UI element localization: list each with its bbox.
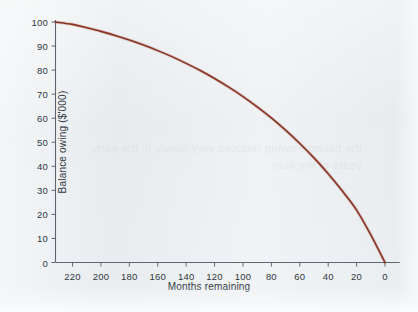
- y-tick-label: 30: [22, 185, 48, 196]
- x-tick-label: 120: [206, 271, 222, 282]
- y-tick-label: 90: [22, 41, 48, 52]
- y-tick-label: 0: [22, 257, 48, 268]
- y-tick-label: 70: [22, 89, 48, 100]
- y-tick-label: 10: [22, 233, 48, 244]
- x-tick-label: 160: [150, 271, 166, 282]
- x-tick-label: 140: [178, 271, 194, 282]
- y-tick-label: 40: [22, 161, 48, 172]
- y-tick-label: 80: [22, 65, 48, 76]
- data-series-group: [56, 22, 386, 263]
- y-tick-label: 50: [22, 137, 48, 148]
- chart-figure: the balance owing reduces very slowly in…: [0, 0, 418, 312]
- y-axis-title: Balance owing ($'000): [57, 91, 68, 194]
- series-line-balance-owing: [56, 22, 386, 263]
- x-tick-label: 60: [294, 271, 305, 282]
- x-tick-label: 0: [382, 271, 387, 282]
- x-tick-marks: [73, 263, 385, 267]
- x-tick-label: 100: [235, 271, 251, 282]
- x-tick-label: 80: [266, 271, 277, 282]
- series-line-halo: [56, 22, 386, 263]
- x-tick-label: 180: [121, 271, 137, 282]
- y-tick-label: 60: [22, 113, 48, 124]
- y-tick-label: 20: [22, 209, 48, 220]
- y-tick-label: 100: [22, 17, 48, 28]
- x-tick-label: 20: [351, 271, 362, 282]
- x-axis-title: Months remaining: [0, 281, 418, 292]
- x-tick-label: 40: [323, 271, 334, 282]
- y-tick-marks: [52, 22, 56, 263]
- axis-lines: [56, 20, 401, 263]
- x-tick-label: 220: [64, 271, 80, 282]
- x-tick-label: 200: [93, 271, 109, 282]
